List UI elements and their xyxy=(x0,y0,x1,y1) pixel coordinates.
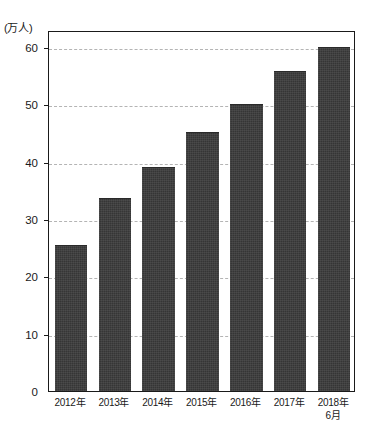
y-tick-label-30: 30 xyxy=(25,214,38,226)
bar-chart-figure: (万人) 0102030405060 2012年2013年2014年2015年2… xyxy=(0,0,380,447)
bar-2018 xyxy=(318,47,350,391)
x-tick-label-text: 2016年 xyxy=(230,397,261,408)
bar-2016 xyxy=(230,104,262,392)
bar-2015 xyxy=(186,132,218,391)
x-tick-2013: 2013年 xyxy=(92,396,136,409)
x-tick-label-text: 2012年 xyxy=(55,397,86,408)
x-tick-2015: 2015年 xyxy=(180,396,224,409)
x-tick-label-text: 2018年 xyxy=(318,397,349,408)
x-axis: 2012年2013年2014年2015年2016年2017年2018年6月 xyxy=(48,396,355,442)
x-tick-2017: 2017年 xyxy=(267,396,311,409)
y-tick-label-60: 60 xyxy=(25,42,38,54)
y-tick-label-0: 0 xyxy=(32,386,38,398)
bar-2013 xyxy=(99,198,131,391)
x-tick-label-text: 2017年 xyxy=(274,397,305,408)
y-tick-label-20: 20 xyxy=(25,271,38,283)
y-tick-label-10: 10 xyxy=(25,329,38,341)
x-tick-label-text: 2013年 xyxy=(98,397,129,408)
bar-2017 xyxy=(274,71,306,391)
y-axis: 0102030405060 xyxy=(0,0,48,447)
x-tick-sublabel-text: 6月 xyxy=(311,409,355,422)
plot-area xyxy=(48,31,355,392)
bar-2014 xyxy=(142,167,174,391)
bars-layer xyxy=(49,32,354,391)
bar-2012 xyxy=(55,245,87,391)
y-tick-label-50: 50 xyxy=(25,99,38,111)
x-tick-label-text: 2015年 xyxy=(186,397,217,408)
x-tick-2018: 2018年6月 xyxy=(311,396,355,422)
x-tick-2012: 2012年 xyxy=(48,396,92,409)
y-tick-label-40: 40 xyxy=(25,157,38,169)
x-tick-label-text: 2014年 xyxy=(142,397,173,408)
x-tick-2016: 2016年 xyxy=(223,396,267,409)
x-tick-2014: 2014年 xyxy=(136,396,180,409)
